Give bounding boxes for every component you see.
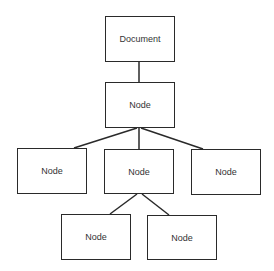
edge-middle-to-grandchild-left — [110, 194, 137, 214]
child-node-right-label: Node — [215, 167, 237, 177]
child-node-middle-label: Node — [128, 167, 150, 177]
grandchild-node-left-label: Node — [85, 232, 107, 242]
child-node-left: Node — [17, 148, 87, 194]
child-node-middle: Node — [104, 149, 174, 194]
tree-diagram: Document Node Node Node Node Node Node — [0, 0, 274, 271]
child-node-right: Node — [191, 149, 261, 195]
document-node: Document — [105, 16, 175, 62]
grandchild-node-right: Node — [147, 215, 217, 260]
root-node-label: Node — [129, 100, 151, 110]
child-node-left-label: Node — [41, 166, 63, 176]
root-node: Node — [105, 82, 175, 128]
edge-node-to-child-right — [141, 128, 203, 149]
edge-node-to-child-left — [74, 128, 137, 148]
edge-middle-to-grandchild-right — [142, 194, 169, 215]
document-node-label: Document — [119, 34, 160, 44]
grandchild-node-left: Node — [61, 214, 131, 260]
grandchild-node-right-label: Node — [171, 233, 193, 243]
